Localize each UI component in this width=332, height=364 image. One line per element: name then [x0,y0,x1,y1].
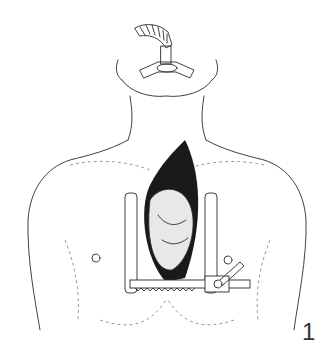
surgical-illustration [0,0,332,364]
figure-number: 1 [302,318,315,346]
tracheostomy-tube-icon [135,25,194,78]
sternotomy-incision [144,140,198,282]
